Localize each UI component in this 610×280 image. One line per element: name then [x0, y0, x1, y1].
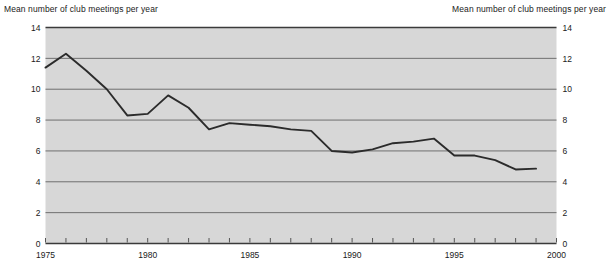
svg-text:14: 14 — [31, 23, 41, 33]
line-chart-plot: 02468101214 02468101214 1975198019851990… — [0, 0, 610, 280]
svg-text:6: 6 — [563, 146, 568, 156]
plot-background — [46, 28, 557, 244]
chart-container: Mean number of club meetings per year Me… — [0, 0, 610, 280]
y-axis-tick-labels-left: 02468101214 — [31, 23, 41, 249]
svg-text:12: 12 — [563, 54, 573, 64]
svg-text:2000: 2000 — [547, 250, 566, 260]
svg-text:12: 12 — [31, 54, 41, 64]
svg-text:2: 2 — [563, 208, 568, 218]
svg-text:0: 0 — [563, 239, 568, 249]
y-axis-tick-labels-right: 02468101214 — [563, 23, 573, 249]
svg-text:2: 2 — [36, 208, 41, 218]
svg-text:1980: 1980 — [138, 250, 157, 260]
svg-text:8: 8 — [563, 115, 568, 125]
svg-text:1990: 1990 — [343, 250, 362, 260]
svg-text:4: 4 — [36, 177, 41, 187]
svg-text:1985: 1985 — [240, 250, 259, 260]
svg-text:0: 0 — [36, 239, 41, 249]
svg-text:14: 14 — [563, 23, 573, 33]
x-axis-tick-labels: 197519801985199019952000 — [36, 250, 566, 260]
svg-text:4: 4 — [563, 177, 568, 187]
svg-text:1975: 1975 — [36, 250, 55, 260]
svg-text:6: 6 — [36, 146, 41, 156]
svg-text:10: 10 — [31, 84, 41, 94]
svg-text:1995: 1995 — [445, 250, 464, 260]
svg-text:10: 10 — [563, 84, 573, 94]
svg-text:8: 8 — [36, 115, 41, 125]
